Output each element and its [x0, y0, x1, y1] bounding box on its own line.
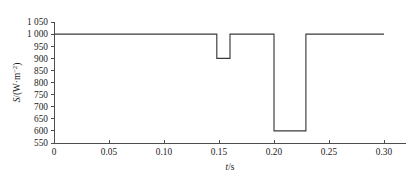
y-axis-tick-marks [51, 22, 55, 143]
x-tick-label: 0.15 [211, 147, 228, 157]
y-tick-label: 1 000 [27, 29, 48, 39]
y-tick-label: 1 050 [27, 17, 48, 27]
x-tick-label: 0.25 [321, 147, 338, 157]
data-series-line [54, 34, 384, 131]
x-tick-label: 0.30 [376, 147, 393, 157]
y-tick-label: 600 [34, 126, 48, 136]
y-axis-title: S/(W·m−2) [11, 63, 24, 103]
x-tick-label: 0 [52, 147, 57, 157]
y-tick-label: 700 [34, 102, 48, 112]
x-axis-title: t/s [226, 162, 235, 172]
x-tick-label: 0.10 [156, 147, 173, 157]
y-tick-label: 900 [34, 54, 48, 64]
y-tick-label: 650 [34, 114, 48, 124]
y-axis-tick-labels: 5506006507007508008509009501 0001 050 [27, 17, 48, 148]
y-tick-label: 550 [34, 138, 48, 148]
chart-plot-area: 5506006507007508008509009501 0001 050 00… [0, 0, 414, 178]
y-tick-label: 750 [34, 90, 48, 100]
chart-figure: 5506006507007508008509009501 0001 050 00… [0, 0, 414, 178]
x-axis-tick-labels: 00.050.100.150.200.250.30 [52, 147, 393, 157]
y-tick-label: 950 [34, 42, 48, 52]
x-tick-label: 0.05 [101, 147, 118, 157]
x-axis-tick-marks [109, 140, 384, 144]
y-tick-label: 850 [34, 66, 48, 76]
x-tick-label: 0.20 [266, 147, 283, 157]
y-tick-label: 800 [34, 78, 48, 88]
